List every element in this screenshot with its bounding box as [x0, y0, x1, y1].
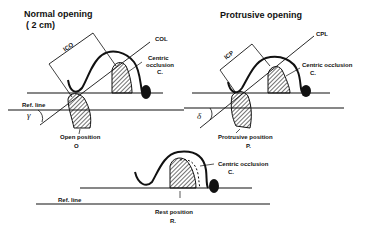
centric-letter-rest: C.	[228, 169, 234, 175]
normal-opening-subtitle: ( 2 cm)	[26, 21, 55, 30]
centric-letter-protrusive: C.	[310, 70, 316, 76]
protrusive-position-letter: P.	[246, 143, 251, 149]
normal-opening-title: Normal opening	[24, 10, 93, 19]
centric-letter-normal: C.	[157, 69, 163, 75]
ref-line-label-rest: Ref. line	[58, 197, 81, 203]
open-position-label: Open position	[60, 134, 100, 140]
rest-position-label: Rest position	[155, 209, 193, 215]
protrusive-position-label: Protrusive position	[218, 134, 273, 140]
gamma-angle-label: γ	[27, 111, 31, 120]
rest-position-letter: R.	[170, 218, 176, 224]
protrusive-opening-panel	[184, 36, 344, 133]
col-label: COL	[155, 36, 168, 42]
centric-label-protrusive: Centric occlusion	[302, 62, 352, 68]
centric-label-rest: Centric occlusion	[218, 161, 268, 167]
centric-label-normal-1: Centric	[148, 55, 169, 61]
centric-label-normal-2: occlusion	[146, 62, 174, 68]
delta-angle-label: δ	[197, 112, 201, 121]
ref-line-label-normal: Ref. line	[22, 102, 45, 108]
diagram-canvas	[0, 0, 368, 233]
cpl-label: CPL	[316, 31, 328, 37]
open-position-letter: O	[74, 143, 79, 149]
col-line	[40, 42, 150, 125]
normal-opening-panel	[8, 33, 184, 134]
protrusive-opening-title: Protrusive opening	[220, 11, 302, 20]
